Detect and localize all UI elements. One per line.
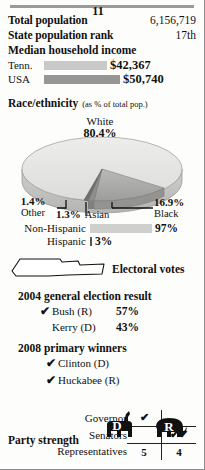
candidate-row-bush: ✔ Bush (R) 57% bbox=[8, 304, 196, 319]
income-row-tennessee: Tenn. $42,367 bbox=[8, 59, 196, 72]
median-income-heading: Median household income bbox=[8, 44, 196, 56]
elephant-letter: R bbox=[164, 419, 174, 434]
electoral-votes-count: 11 bbox=[0, 4, 196, 19]
pie-asian-value: 1.3% bbox=[56, 208, 81, 220]
income-bar-fill bbox=[44, 61, 107, 70]
race-heading-note: (as % of total pop.) bbox=[82, 99, 147, 109]
tennessee-outline: 11 bbox=[8, 256, 108, 282]
primary-winners-heading: 2008 primary winners bbox=[8, 342, 196, 354]
hispanic-row-label: Non-Hispanic bbox=[8, 222, 90, 234]
pie-black-value: 16.9% bbox=[154, 197, 198, 209]
hispanic-row-label: Hispanic bbox=[8, 235, 90, 247]
hispanic-row-value: 97% bbox=[155, 222, 178, 234]
pie-white-value: 80.4% bbox=[60, 127, 140, 140]
donkey-letter: D bbox=[112, 418, 121, 433]
winner-check-icon: ✔ bbox=[44, 356, 58, 371]
candidate-percent: 43% bbox=[116, 321, 139, 333]
state-shape-icon bbox=[8, 256, 108, 278]
primary-winner-clinton: ✔ Clinton (D) bbox=[8, 356, 196, 371]
winner-check-icon: ✔ bbox=[44, 373, 58, 388]
pie-black-name: Black bbox=[154, 208, 198, 219]
electoral-votes-row: 11 Electoral votes bbox=[8, 257, 196, 281]
rep-cell: 4 bbox=[162, 443, 197, 460]
income-bar-track bbox=[44, 61, 107, 70]
hispanic-row-non-hispanic: Non-Hispanic 97% bbox=[8, 222, 196, 235]
income-row-value: $42,367 bbox=[110, 58, 151, 73]
hispanic-row-hispanic: Hispanic 3% bbox=[8, 235, 196, 248]
primary-winner-name: Clinton (D) bbox=[58, 357, 109, 369]
stat-value: 17th bbox=[176, 29, 196, 41]
income-bar-track bbox=[44, 75, 120, 84]
income-row-label: USA bbox=[8, 73, 44, 85]
income-row-value: $50,740 bbox=[123, 72, 164, 87]
elephant-icon: R bbox=[152, 410, 192, 442]
primary-winner-name: Huckabee (R) bbox=[58, 374, 119, 386]
party-strength-heading: Party strength bbox=[8, 434, 79, 446]
party-symbols: D R bbox=[104, 410, 192, 442]
candidate-row-kerry: Kerry (D) 43% bbox=[8, 321, 196, 333]
pie-label-white: White 80.4% bbox=[60, 116, 140, 140]
pie-other-name: Other bbox=[10, 207, 56, 218]
stat-label: State population rank bbox=[8, 29, 113, 41]
state-fact-panel: Total population 6,156,719 State populat… bbox=[0, 0, 205, 470]
hispanic-bar-fill bbox=[90, 224, 152, 233]
candidate-name: Bush (R) bbox=[52, 305, 116, 317]
stat-population-rank: State population rank 17th bbox=[8, 29, 196, 41]
winner-check-icon: ✔ bbox=[38, 304, 52, 319]
income-bar-fill bbox=[44, 75, 120, 84]
party-strength-block: Party strength D R Governor ✔ Senators ✔… bbox=[8, 410, 196, 460]
electoral-votes-label: Electoral votes bbox=[112, 263, 185, 275]
pie-label-black: 16.9% Black bbox=[154, 197, 198, 220]
dem-cell: 5 bbox=[127, 443, 162, 460]
race-ethnicity-heading: Race/ethnicity (as % of total pop.) bbox=[8, 93, 196, 111]
race-heading-text: Race/ethnicity bbox=[8, 97, 78, 109]
pie-label-asian: 1.3% Asian bbox=[56, 205, 148, 222]
pie-asian-name: Asian bbox=[85, 209, 110, 220]
hispanic-row-value: 3% bbox=[95, 235, 112, 247]
income-row-usa: USA $50,740 bbox=[8, 73, 196, 86]
pie-label-other: 1.4% Other bbox=[10, 196, 56, 219]
general-election-heading: 2004 general election result bbox=[8, 290, 196, 302]
pie-other-value: 1.4% bbox=[10, 196, 56, 208]
hispanic-bar-fill bbox=[90, 237, 92, 246]
candidate-name: Kerry (D) bbox=[52, 321, 116, 333]
income-row-label: Tenn. bbox=[8, 59, 44, 71]
primary-winner-huckabee: ✔ Huckabee (R) bbox=[8, 373, 196, 388]
race-pie-chart: White 80.4% 1.4% Other 1.3% Asian 16.9% … bbox=[8, 112, 196, 222]
donkey-icon: D bbox=[104, 410, 144, 442]
candidate-percent: 57% bbox=[116, 305, 139, 317]
